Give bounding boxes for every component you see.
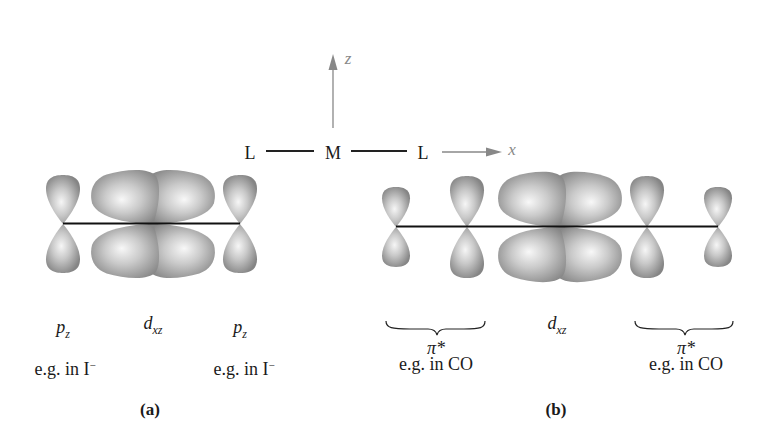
brace-right-icon (635, 321, 733, 335)
dxz-label-a: dxz (144, 314, 163, 332)
note-left-co: e.g. in CO (399, 355, 473, 373)
pz-label-left: pz (56, 318, 70, 336)
panel-a-orbitals (46, 170, 257, 278)
caption-a: (a) (140, 401, 160, 418)
note-right-co: e.g. in CO (649, 355, 723, 373)
axes-diagram (266, 54, 502, 157)
note-right-iodide: e.g. in I− (213, 360, 274, 378)
panel-b-orbitals (382, 172, 732, 282)
brace-left-icon (386, 321, 485, 335)
dxz-label-b: dxz (548, 314, 567, 332)
caption-b: (b) (546, 401, 567, 418)
orbital-figure (0, 0, 762, 438)
pz-label-right: pz (233, 318, 247, 336)
z-axis-arrow-icon (329, 54, 338, 128)
note-left-iodide: e.g. in I− (34, 360, 95, 378)
x-axis-arrow-icon (442, 148, 502, 157)
